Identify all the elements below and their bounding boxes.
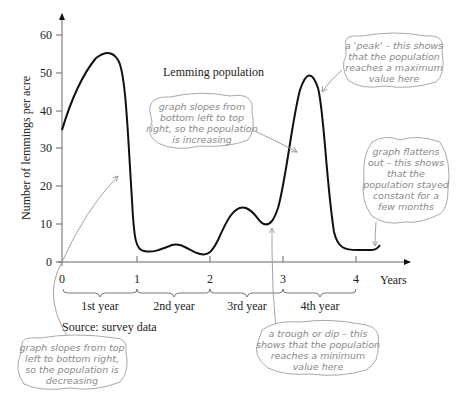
- svg-text:shows that the population: shows that the population: [256, 339, 380, 350]
- x-tick-2: 2: [207, 272, 213, 286]
- svg-text:a 'peak' – this shows: a 'peak' – this shows: [345, 40, 443, 51]
- svg-text:a trough or dip – this: a trough or dip – this: [269, 328, 368, 339]
- population-line: [62, 53, 380, 254]
- y-tick-10: 10: [40, 217, 52, 231]
- callout-trough: a trough or dip – this shows that the po…: [256, 320, 380, 375]
- svg-text:reaches a maximum: reaches a maximum: [345, 62, 442, 73]
- svg-text:value here: value here: [369, 73, 420, 84]
- y-tick-0: 0: [46, 255, 52, 269]
- x-axis-title: Years: [380, 273, 407, 287]
- y-tick-20: 20: [40, 179, 52, 193]
- svg-text:is increasing: is increasing: [172, 134, 232, 145]
- svg-text:graph slopes from top: graph slopes from top: [20, 342, 125, 353]
- chart-title: Lemming population: [163, 65, 264, 79]
- year-label-4: 4th year: [301, 299, 340, 313]
- svg-text:that the population: that the population: [348, 51, 439, 62]
- svg-text:out – this shows: out – this shows: [368, 157, 444, 168]
- callout-increasing: graph slopes from bottom left to top rig…: [146, 93, 257, 148]
- year-brackets: [63, 289, 356, 297]
- callout-peak: a 'peak' – this shows that the populatio…: [343, 33, 443, 87]
- svg-text:population stayed: population stayed: [362, 179, 450, 190]
- x-tick-1: 1: [134, 272, 140, 286]
- year-label-3: 3rd year: [227, 299, 267, 313]
- svg-text:value here: value here: [293, 361, 344, 372]
- svg-text:decreasing: decreasing: [46, 375, 98, 386]
- svg-text:graph slopes from: graph slopes from: [159, 101, 245, 112]
- x-tick-0: 0: [59, 272, 65, 286]
- svg-text:right, so the population: right, so the population: [146, 123, 257, 134]
- lemming-chart: 0 10 20 30 40 50 60 0 1 2 3 4 Years 1st …: [0, 0, 466, 408]
- source-note: Source: survey data: [62, 320, 157, 334]
- callout-flat: graph flattens out – this shows that the…: [362, 137, 450, 223]
- y-tick-50: 50: [40, 66, 52, 80]
- svg-text:few months: few months: [378, 201, 434, 212]
- svg-text:left to bottom right,: left to bottom right,: [25, 353, 119, 364]
- svg-text:that the: that the: [387, 168, 425, 179]
- x-tick-4: 4: [353, 272, 359, 286]
- svg-text:graph flattens: graph flattens: [372, 146, 439, 157]
- y-tick-40: 40: [40, 104, 52, 118]
- svg-text:reaches a minimum: reaches a minimum: [271, 350, 366, 361]
- y-tick-60: 60: [40, 28, 52, 42]
- y-ticks: 0 10 20 30 40 50 60: [40, 28, 62, 269]
- y-axis-title: Number of lemmings per acre: [19, 76, 33, 220]
- svg-text:so the population is: so the population is: [25, 364, 119, 375]
- x-tick-3: 3: [280, 272, 286, 286]
- y-tick-30: 30: [40, 141, 52, 155]
- svg-text:constant for a: constant for a: [373, 190, 439, 201]
- callout-decreasing: graph slopes from top left to bottom rig…: [18, 335, 127, 389]
- x-ticks: 0 1 2 3 4 Years: [59, 256, 407, 287]
- year-label-2: 2nd year: [153, 299, 195, 313]
- year-label-1: 1st year: [81, 299, 119, 313]
- svg-text:bottom left to top: bottom left to top: [160, 112, 244, 123]
